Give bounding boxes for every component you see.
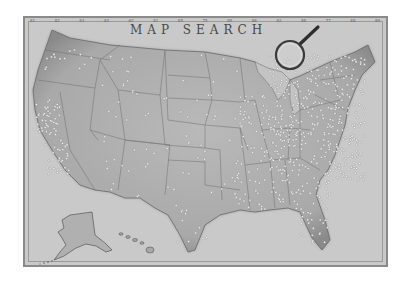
map-pin[interactable] <box>351 74 353 76</box>
map-pin[interactable] <box>363 63 365 65</box>
map-pin[interactable] <box>240 181 242 183</box>
map-pin[interactable] <box>46 58 48 60</box>
map-pin[interactable] <box>329 163 331 165</box>
map-pin[interactable] <box>300 222 302 224</box>
map-pin[interactable] <box>338 107 340 109</box>
map-pin[interactable] <box>236 176 238 178</box>
map-pin[interactable] <box>287 139 289 141</box>
map-pin[interactable] <box>270 129 272 131</box>
map-pin[interactable] <box>353 83 355 85</box>
map-pin[interactable] <box>322 114 324 116</box>
map-pin[interactable] <box>214 115 216 117</box>
map-pin[interactable] <box>264 155 266 157</box>
map-pin[interactable] <box>345 75 347 77</box>
map-pin[interactable] <box>118 101 120 103</box>
map-pin[interactable] <box>79 67 81 69</box>
map-pin[interactable] <box>197 157 199 159</box>
map-pin[interactable] <box>59 58 61 60</box>
map-pin[interactable] <box>330 71 332 73</box>
map-pin[interactable] <box>309 192 311 194</box>
map-pin[interactable] <box>326 172 328 174</box>
map-pin[interactable] <box>325 188 327 190</box>
map-pin[interactable] <box>260 147 262 149</box>
map-pin[interactable] <box>300 143 302 145</box>
map-pin[interactable] <box>281 118 283 120</box>
map-pin[interactable] <box>64 167 66 169</box>
map-pin[interactable] <box>271 166 273 168</box>
map-pin[interactable] <box>352 124 354 126</box>
map-pin[interactable] <box>188 173 190 175</box>
map-pin[interactable] <box>289 129 291 131</box>
map-pin[interactable] <box>104 136 106 138</box>
map-pin[interactable] <box>322 117 324 119</box>
map-pin[interactable] <box>50 56 52 58</box>
map-pin[interactable] <box>364 122 366 124</box>
map-pin[interactable] <box>278 194 280 196</box>
map-pin[interactable] <box>341 152 343 154</box>
map-pin[interactable] <box>295 207 297 209</box>
map-pin[interactable] <box>322 222 324 224</box>
map-pin[interactable] <box>67 155 69 157</box>
map-pin[interactable] <box>316 195 318 197</box>
map-pin[interactable] <box>269 55 271 57</box>
map-pin[interactable] <box>276 87 278 89</box>
map-pin[interactable] <box>296 203 298 205</box>
map-pin[interactable] <box>349 139 351 141</box>
map-pin[interactable] <box>336 85 338 87</box>
map-pin[interactable] <box>264 179 266 181</box>
map-pin[interactable] <box>248 121 250 123</box>
map-pin[interactable] <box>304 166 306 168</box>
map-pin[interactable] <box>37 123 39 125</box>
map-pin[interactable] <box>110 55 112 57</box>
map-pin[interactable] <box>56 103 58 105</box>
map-pin[interactable] <box>282 180 284 182</box>
map-pin[interactable] <box>346 112 348 114</box>
map-pin[interactable] <box>355 139 357 141</box>
map-pin[interactable] <box>324 219 326 221</box>
map-pin[interactable] <box>291 169 293 171</box>
map-pin[interactable] <box>282 201 284 203</box>
map-pin[interactable] <box>313 155 315 157</box>
map-pin[interactable] <box>328 192 330 194</box>
map-pin[interactable] <box>234 180 236 182</box>
map-pin[interactable] <box>341 148 343 150</box>
map-pin[interactable] <box>346 84 348 86</box>
map-pin[interactable] <box>239 106 241 108</box>
map-pin[interactable] <box>261 123 263 125</box>
map-pin[interactable] <box>303 235 305 237</box>
map-pin[interactable] <box>276 151 278 153</box>
map-pin[interactable] <box>122 84 124 86</box>
map-pin[interactable] <box>293 164 295 166</box>
map-pin[interactable] <box>329 161 331 163</box>
map-pin[interactable] <box>35 103 37 105</box>
map-pin[interactable] <box>249 179 251 181</box>
map-pin[interactable] <box>297 122 299 124</box>
map-pin[interactable] <box>328 148 330 150</box>
map-pin[interactable] <box>340 57 342 59</box>
map-pin[interactable] <box>328 56 330 58</box>
map-pin[interactable] <box>167 186 169 188</box>
map-pin[interactable] <box>345 67 347 69</box>
map-pin[interactable] <box>285 80 287 82</box>
map-pin[interactable] <box>248 171 250 173</box>
map-pin[interactable] <box>314 101 316 103</box>
map-pin[interactable] <box>338 167 340 169</box>
map-pin[interactable] <box>37 128 39 130</box>
map-pin[interactable] <box>334 162 336 164</box>
map-pin[interactable] <box>297 83 299 85</box>
map-pin[interactable] <box>52 152 54 154</box>
map-pin[interactable] <box>43 114 45 116</box>
map-pin[interactable] <box>304 107 306 109</box>
map-pin[interactable] <box>287 174 289 176</box>
map-pin[interactable] <box>327 107 329 109</box>
map-pin[interactable] <box>132 90 134 92</box>
map-pin[interactable] <box>239 96 241 98</box>
hawaii[interactable] <box>119 233 154 253</box>
map-pin[interactable] <box>275 64 277 66</box>
map-pin[interactable] <box>180 111 182 113</box>
map-pin[interactable] <box>281 173 283 175</box>
map-pin[interactable] <box>318 75 320 77</box>
map-pin[interactable] <box>175 204 177 206</box>
map-pin[interactable] <box>358 104 360 106</box>
map-pin[interactable] <box>274 116 276 118</box>
